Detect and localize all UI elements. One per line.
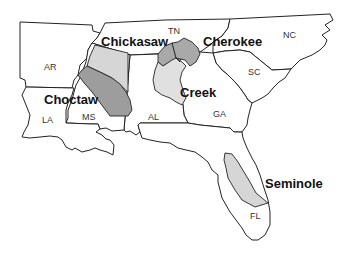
label-sc: SC — [248, 67, 261, 77]
southeast-map: AR TN NC SC GA AL MS LA FL Chickasaw Che… — [0, 0, 352, 255]
label-chickasaw: Chickasaw — [101, 34, 169, 49]
label-cherokee: Cherokee — [203, 34, 262, 49]
label-ms: MS — [82, 112, 96, 122]
label-choctaw: Choctaw — [44, 92, 99, 107]
label-tn: TN — [168, 26, 180, 36]
label-nc: NC — [283, 30, 296, 40]
label-seminole: Seminole — [265, 176, 323, 191]
label-la: LA — [42, 115, 53, 125]
label-al: AL — [148, 112, 159, 122]
label-ga: GA — [213, 109, 226, 119]
label-fl: FL — [250, 211, 261, 221]
label-creek: Creek — [180, 85, 217, 100]
label-ar: AR — [44, 62, 57, 72]
